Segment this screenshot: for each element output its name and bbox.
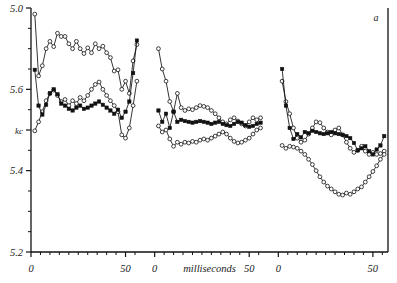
data-point-open [67, 42, 71, 46]
data-point-open [187, 141, 191, 145]
data-point-filled [375, 148, 378, 151]
data-point-filled [284, 104, 287, 107]
data-point-open [164, 79, 168, 83]
data-point-filled [172, 110, 175, 113]
data-point-open [52, 45, 56, 49]
data-point-open [288, 112, 292, 116]
data-point-open [333, 190, 337, 194]
data-point-filled [240, 121, 243, 124]
data-point-open [379, 152, 383, 156]
data-point-filled [198, 119, 201, 122]
data-point-filled [128, 100, 131, 103]
data-point-open [105, 94, 109, 98]
data-point-open [74, 102, 78, 106]
data-point-open [363, 180, 367, 184]
data-point-open [352, 190, 356, 194]
data-point-open [135, 79, 139, 83]
data-point-open [112, 69, 116, 73]
data-point-open [232, 116, 236, 120]
data-point-open [206, 138, 210, 142]
data-point-filled [202, 120, 205, 123]
data-point-filled [210, 122, 213, 125]
y-tick-label: 5.0 [10, 3, 24, 14]
data-point-open [168, 100, 172, 104]
data-point-open [86, 94, 90, 98]
data-point-filled [383, 134, 386, 137]
data-point-open [93, 42, 97, 46]
data-point-open [124, 79, 128, 83]
data-point-filled [248, 125, 251, 128]
data-point-open [183, 109, 187, 113]
data-point-open [348, 146, 352, 150]
data-point-open [78, 96, 82, 100]
data-point-filled [187, 120, 190, 123]
data-point-open [194, 140, 198, 144]
data-point-open [299, 140, 303, 144]
data-point-open [56, 31, 60, 35]
data-point-open [157, 47, 161, 51]
data-point-open [371, 170, 375, 174]
data-point-open [124, 136, 128, 140]
data-point-open [295, 136, 299, 140]
scientific-line-chart: 5.05.6kc5.45.2050050050millisecondsa [0, 0, 397, 283]
data-point-open [44, 47, 48, 51]
data-point-open [303, 138, 307, 142]
data-point-open [326, 184, 330, 188]
data-point-open [379, 157, 383, 161]
data-point-open [322, 126, 326, 130]
data-point-filled [330, 130, 333, 133]
data-point-filled [82, 107, 85, 110]
data-point-open [168, 137, 172, 141]
data-point-open [33, 12, 37, 16]
data-point-open [240, 140, 244, 144]
data-point-open [194, 106, 198, 110]
data-point-filled [33, 68, 36, 71]
data-point-open [101, 44, 105, 48]
data-point-filled [296, 132, 299, 135]
data-point-filled [341, 133, 344, 136]
data-point-open [82, 52, 86, 56]
data-point-filled [113, 112, 116, 115]
data-point-open [363, 149, 367, 153]
data-point-filled [183, 119, 186, 122]
data-point-open [71, 99, 75, 103]
data-point-open [63, 98, 67, 102]
data-point-filled [116, 108, 119, 111]
data-point-filled [195, 120, 198, 123]
data-point-open [375, 164, 379, 168]
data-point-open [247, 136, 251, 140]
data-point-filled [221, 122, 224, 125]
data-point-open [259, 126, 263, 130]
y-tick-label: 5.6 [10, 84, 24, 95]
data-point-filled [356, 149, 359, 152]
data-point-filled [299, 136, 302, 139]
x-tick-label: 50 [244, 263, 255, 274]
data-point-open [191, 108, 195, 112]
data-point-filled [255, 122, 258, 125]
data-point-open [341, 193, 345, 197]
data-point-open [292, 145, 296, 149]
data-point-filled [311, 129, 314, 132]
data-point-filled [56, 93, 59, 96]
data-point-open [209, 136, 213, 140]
data-point-open [259, 116, 263, 120]
x-axis-label: milliseconds [183, 263, 236, 274]
data-point-filled [326, 132, 329, 135]
data-point-open [307, 157, 311, 161]
data-point-filled [217, 120, 220, 123]
data-point-filled [63, 104, 66, 107]
data-point-filled [322, 132, 325, 135]
data-point-open [247, 120, 251, 124]
data-point-open [187, 107, 191, 111]
data-point-open [120, 133, 124, 137]
data-point-open [105, 51, 109, 55]
data-point-open [97, 47, 101, 51]
data-point-open [225, 132, 229, 136]
data-point-open [337, 126, 341, 130]
data-point-filled [229, 124, 232, 127]
panel-label: a [374, 12, 379, 23]
data-point-open [164, 128, 168, 132]
data-point-open [292, 126, 296, 130]
data-point-open [352, 150, 356, 154]
data-point-filled [124, 110, 127, 113]
